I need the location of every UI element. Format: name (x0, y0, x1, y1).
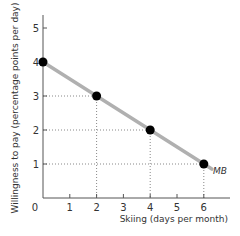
x-axis-label: Skiing (days per month) (120, 214, 228, 224)
series-mb (39, 58, 212, 170)
x-tick-label: 4 (147, 202, 153, 213)
data-point (146, 126, 155, 135)
data-point (39, 58, 48, 67)
chart: 12345612345 0 Skiing (days per month) Wi… (0, 0, 240, 236)
mb-curve-label: MB (213, 166, 227, 176)
ticks: 12345612345 (33, 23, 207, 213)
data-point (92, 92, 101, 101)
axes (43, 15, 230, 198)
mb-curve (43, 62, 212, 169)
x-tick-label: 2 (93, 202, 99, 213)
origin-label: 0 (32, 202, 38, 213)
y-axis-label: Willingness to pay (percentage points pe… (10, 3, 20, 214)
x-tick-label: 3 (120, 202, 126, 213)
y-tick-label: 5 (33, 23, 39, 34)
y-tick-label: 2 (33, 125, 39, 136)
x-tick-label: 5 (174, 202, 180, 213)
data-point (199, 160, 208, 169)
x-tick-label: 6 (201, 202, 207, 213)
y-tick-label: 3 (33, 91, 39, 102)
y-tick-label: 4 (33, 57, 39, 68)
y-tick-label: 1 (33, 159, 39, 170)
x-tick-label: 1 (67, 202, 73, 213)
